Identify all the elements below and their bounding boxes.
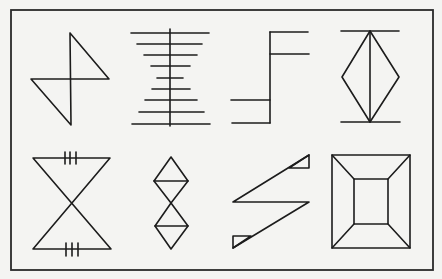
figure-ladder [131, 29, 210, 126]
figure-z-triangles [233, 155, 309, 248]
figure-hourglass-ticks [33, 152, 111, 256]
figure-bowtie-z [31, 33, 109, 125]
figure-canvas [0, 0, 442, 279]
figure-diamond-bars [341, 31, 400, 122]
figure-frustum-square [332, 155, 410, 248]
figure-double-diamond [154, 157, 188, 249]
figure-step [231, 32, 309, 123]
